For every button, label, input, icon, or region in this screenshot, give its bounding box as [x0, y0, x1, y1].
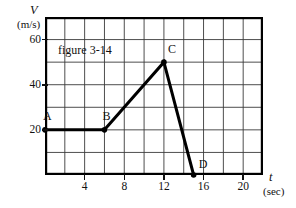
y-axis-symbol-label: V: [30, 4, 38, 17]
y-tick-label-60: 60: [19, 34, 41, 46]
x-tick-label-4: 4: [75, 181, 95, 193]
y-axis-unit-label: (m/s): [17, 19, 40, 30]
x-tick-label-16: 16: [194, 181, 214, 193]
y-tick-label-40: 40: [19, 79, 41, 91]
velocity-polyline: [45, 62, 194, 175]
velocity-time-figure: V (m/s) t (sec) 204060 48121620 ABCD fig…: [0, 0, 296, 208]
x-axis-unit-label: (sec): [263, 186, 284, 197]
y-tick-mark-60: [42, 39, 48, 40]
x-tick-mark-4: [84, 174, 85, 180]
point-label-b: B: [102, 110, 110, 122]
point-label-a: A: [43, 110, 52, 122]
point-label-d: D: [199, 158, 208, 170]
point-label-c: C: [168, 43, 176, 55]
y-tick-mark-20: [42, 129, 48, 130]
x-tick-mark-12: [163, 174, 164, 180]
x-tick-mark-16: [203, 174, 204, 180]
x-tick-label-12: 12: [154, 181, 174, 193]
y-tick-mark-40: [42, 84, 48, 85]
x-tick-mark-8: [124, 174, 125, 180]
x-tick-label-8: 8: [114, 181, 134, 193]
data-point-b: [102, 127, 108, 133]
velocity-data-points: [42, 59, 196, 177]
data-point-d: [191, 172, 197, 178]
y-tick-label-20: 20: [19, 124, 41, 136]
velocity-series: [45, 17, 263, 175]
data-point-c: [161, 59, 167, 65]
x-axis-symbol-label: t: [269, 171, 272, 184]
x-tick-label-20: 20: [233, 181, 253, 193]
plot-area: [45, 17, 263, 175]
x-tick-mark-20: [242, 174, 243, 180]
figure-caption: figure 3-14: [58, 44, 112, 56]
